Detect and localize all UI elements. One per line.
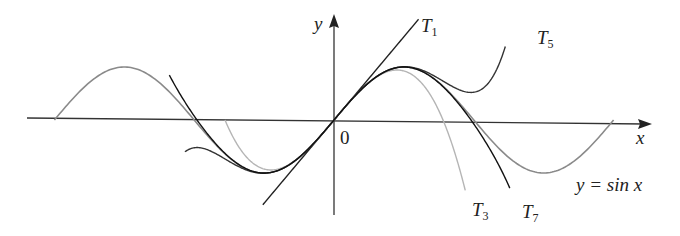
sin-curve-label: y = sin x (576, 175, 642, 194)
origin-label: 0 (340, 128, 350, 147)
y-axis-label: y (314, 14, 322, 33)
t7-label: T7 (522, 202, 539, 224)
t3-label: T3 (472, 200, 489, 222)
t5-label: T5 (537, 28, 554, 50)
y-axis-arrow-icon (329, 14, 339, 28)
t1-label: T1 (421, 16, 438, 38)
x-axis-label: x (636, 128, 644, 147)
taylor-polynomials-figure: y x 0 T1 T5 T3 T7 y = sin x (0, 0, 680, 236)
plot-canvas (0, 0, 680, 236)
x-axis (27, 118, 645, 124)
curve-t5 (185, 46, 505, 173)
